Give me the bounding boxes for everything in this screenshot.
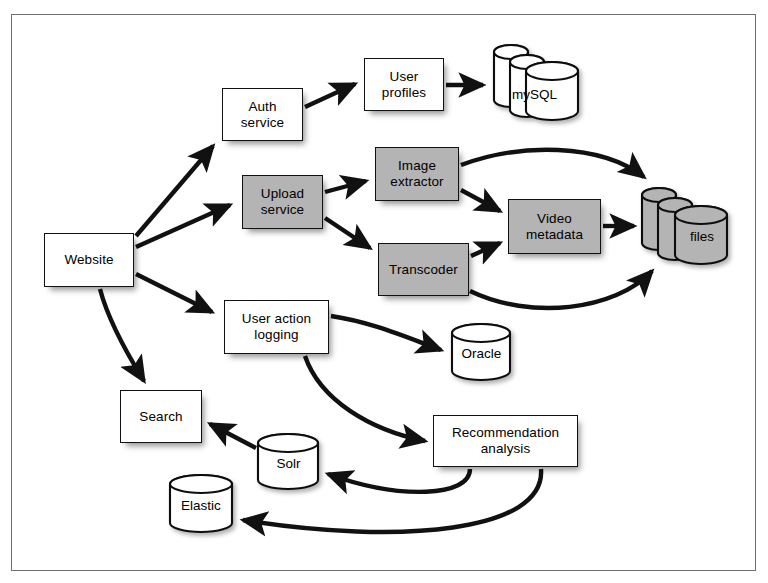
node-files[interactable]: files: [640, 184, 730, 267]
node-upload-service[interactable]: Upload service: [242, 175, 323, 229]
node-user-action-logging-label: User action logging: [242, 311, 311, 343]
node-elastic[interactable]: Elastic: [168, 473, 234, 535]
node-website-label: Website: [64, 252, 113, 268]
oracle-cylinder-icon: [450, 322, 513, 383]
node-recommendation-analysis[interactable]: Recommendation analysis: [433, 415, 578, 467]
mysql-cylinder-stack-icon: [492, 40, 581, 123]
elastic-cylinder-icon: [168, 473, 234, 535]
node-mysql[interactable]: mySQL: [492, 40, 581, 123]
diagram-canvas: Website Auth service User profiles mySQL…: [0, 0, 768, 583]
node-auth-service[interactable]: Auth service: [222, 88, 303, 141]
node-video-metadata[interactable]: Video metadata: [508, 199, 601, 254]
node-search[interactable]: Search: [120, 390, 202, 443]
node-upload-service-label: Upload service: [261, 186, 304, 218]
node-transcoder[interactable]: Transcoder: [378, 243, 469, 296]
node-user-profiles[interactable]: User profiles: [364, 58, 444, 111]
node-website[interactable]: Website: [44, 233, 134, 287]
node-solr[interactable]: Solr: [256, 432, 321, 492]
node-oracle[interactable]: Oracle: [450, 322, 513, 383]
node-video-metadata-label: Video metadata: [526, 211, 583, 243]
node-search-label: Search: [139, 409, 182, 425]
solr-cylinder-icon: [256, 432, 321, 492]
node-user-action-logging[interactable]: User action logging: [224, 300, 329, 354]
node-image-extractor-label: Image extractor: [390, 158, 443, 190]
files-cylinder-stack-icon: [640, 184, 730, 267]
node-image-extractor[interactable]: Image extractor: [375, 147, 459, 201]
node-transcoder-label: Transcoder: [389, 262, 458, 278]
node-recommendation-analysis-label: Recommendation analysis: [452, 425, 559, 457]
node-auth-service-label: Auth service: [241, 99, 284, 131]
node-user-profiles-label: User profiles: [382, 69, 426, 101]
